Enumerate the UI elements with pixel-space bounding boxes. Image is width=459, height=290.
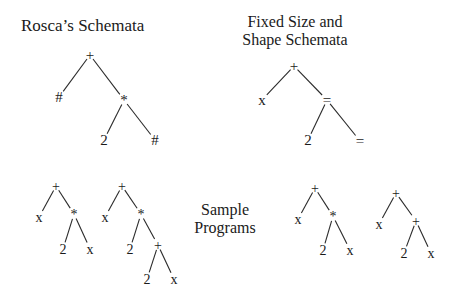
tree-node: # (151, 132, 159, 148)
tree-node: * (138, 207, 145, 222)
tree-edge (325, 221, 332, 244)
sample-program-3-tree: +x*2x (295, 181, 354, 258)
tree-node: = (323, 92, 331, 108)
sample-programs-label-line2: Programs (194, 219, 255, 236)
tree-node: 2 (100, 132, 108, 148)
tree-edge (143, 218, 154, 239)
tree-node: 2 (304, 132, 312, 148)
tree-node: x (258, 92, 266, 108)
sample-programs-label-line1: Sample (201, 201, 249, 218)
tree-node: 2 (127, 242, 134, 257)
fixed-schemata-title-line1: Fixed Size and (247, 13, 342, 30)
tree-edge (132, 219, 139, 243)
tree-edge (127, 104, 151, 135)
tree-node: + (392, 186, 400, 201)
tree-node: + (52, 179, 60, 194)
tree-node: + (290, 58, 298, 74)
sample-program-4-tree: +x+2x (376, 186, 435, 261)
fixed-schema-tree: +x=2= (258, 58, 364, 149)
tree-edge (407, 226, 415, 247)
tree-edge (59, 190, 70, 208)
sample-program-2-tree: +x*2+2x (102, 179, 178, 287)
tree-node: 2 (401, 246, 408, 261)
tree-node: x (295, 212, 302, 227)
tree-edge (335, 221, 347, 244)
tree-node: x (36, 210, 43, 225)
tree-node: 2 (320, 243, 327, 258)
tree-node: # (55, 89, 63, 105)
tree-node: 2 (144, 272, 151, 287)
tree-node: x (171, 272, 178, 287)
tree-edge (76, 219, 87, 243)
tree-node: x (376, 217, 383, 232)
rosca-schema-tree: +#*2# (55, 47, 159, 148)
schemata-diagram: +#*2#+x=2=+x*2x+x*2+2x+x*2x+x+2x (0, 0, 459, 290)
tree-node: x (428, 246, 435, 261)
tree-node: * (71, 207, 78, 222)
tree-node: + (118, 179, 126, 194)
tree-node: 2 (60, 242, 67, 257)
tree-edge (149, 250, 156, 272)
tree-node: + (86, 47, 94, 63)
tree-edge (107, 105, 122, 134)
tree-node: x (87, 242, 94, 257)
tree-edge (65, 219, 72, 243)
tree-node: x (347, 243, 354, 258)
tree-edge (63, 59, 87, 91)
tree-node: + (412, 214, 420, 229)
sample-program-1-tree: +x*2x (36, 179, 94, 257)
tree-edge (298, 70, 323, 95)
tree-node: + (154, 238, 162, 253)
tree-node: = (356, 133, 364, 149)
tree-edge (160, 250, 171, 273)
tree-edge (267, 70, 291, 95)
tree-edge (318, 192, 330, 210)
tree-edge (330, 104, 356, 136)
tree-edge (311, 105, 325, 134)
tree-node: x (102, 210, 109, 225)
fixed-schemata-title-line2: Shape Schemata (242, 31, 347, 48)
tree-edge (418, 226, 428, 247)
tree-node: + (311, 181, 319, 196)
tree-edge (399, 197, 412, 215)
tree-node: * (120, 92, 128, 108)
tree-node: * (330, 209, 337, 224)
rosca-schemata-title: Rosca’s Schemata (21, 17, 144, 34)
tree-edge (125, 190, 137, 208)
tree-edge (93, 59, 120, 94)
